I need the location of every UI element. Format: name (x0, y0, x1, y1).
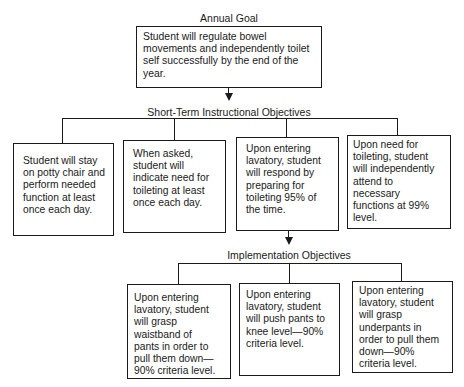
objective-text: Upon entering lavatory, student will gra… (134, 292, 224, 377)
short-term-objective-3: Upon entering lavatory, student will res… (236, 137, 339, 231)
connector-line (401, 263, 402, 281)
implementation-objective-1: Upon entering lavatory, student will gra… (127, 284, 231, 379)
implementation-objective-2: Upon entering lavatory, student will pus… (239, 283, 340, 376)
connector-line (62, 118, 398, 119)
short-term-objective-1: Student will stay on potty chair and per… (13, 143, 114, 236)
short-term-objective-4: Upon need for toileting, student will in… (347, 135, 451, 229)
objective-text: Upon entering lavatory, student will gra… (359, 285, 446, 370)
connector-line (174, 118, 175, 140)
objective-text: Upon entering lavatory, student will pus… (246, 289, 333, 350)
annual-goal-heading: Annual Goal (200, 12, 258, 24)
connector-line (178, 263, 179, 284)
objective-text: Upon need for toileting, student will in… (353, 139, 444, 224)
short-term-heading: Short-Term Instructional Objectives (147, 106, 310, 118)
objective-text: When asked, student will indicate need f… (133, 148, 219, 209)
objective-text: Upon entering lavatory, student will res… (246, 143, 332, 216)
annual-goal-box: Student will regulate bowel movements an… (136, 26, 322, 88)
arrow-down-icon (285, 237, 293, 245)
connector-line (289, 263, 290, 283)
implementation-heading: Implementation Objectives (227, 249, 351, 261)
short-term-objective-2: When asked, student will indicate need f… (123, 140, 226, 233)
objective-text: Student will stay on potty chair and per… (23, 155, 107, 216)
connector-line (397, 118, 398, 135)
connector-line (62, 118, 63, 143)
connector-line (286, 118, 287, 137)
arrow-down-icon (225, 93, 233, 101)
annual-goal-text: Student will regulate bowel movements an… (143, 31, 316, 80)
implementation-objective-3: Upon entering lavatory, student will gra… (352, 281, 453, 373)
